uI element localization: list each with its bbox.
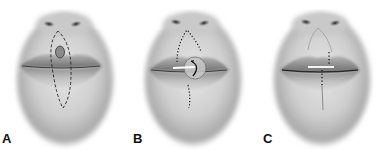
- face-illustration-a: [0, 0, 127, 151]
- panel-c: C: [250, 0, 377, 151]
- panel-label-a: A: [2, 131, 11, 146]
- panel-label-b: B: [133, 131, 142, 146]
- face-illustration-b: [125, 0, 252, 151]
- panel-label-c: C: [263, 131, 272, 146]
- face-illustration-c: [250, 0, 382, 151]
- panel-a: A: [0, 0, 127, 151]
- panel-b: B: [125, 0, 252, 151]
- rotation-arrow: [173, 67, 195, 68]
